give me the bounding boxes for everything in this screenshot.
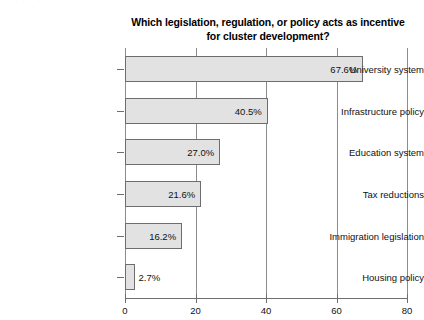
category-label: University system — [308, 63, 424, 74]
bar-value-label: 16.2% — [149, 224, 176, 250]
y-tick — [117, 69, 124, 70]
x-tick-80 — [407, 294, 408, 303]
x-tick-label-60: 60 — [331, 305, 342, 316]
x-tick-60 — [337, 294, 338, 303]
scan-artifact-text: · · · · — [14, 0, 41, 5]
bar-value-label: 27.0% — [187, 140, 214, 166]
y-tick — [117, 194, 124, 195]
category-label: Education system — [308, 147, 424, 158]
y-tick — [117, 111, 124, 112]
y-tick — [117, 236, 124, 237]
bar-value-label: 21.6% — [168, 182, 195, 208]
x-tick-label-40: 40 — [261, 305, 272, 316]
bar-chart: · · · · Which legislation, regulation, o… — [0, 0, 424, 320]
x-tick-label-80: 80 — [402, 305, 413, 316]
category-label: Immigration legislation — [308, 230, 424, 241]
chart-title: Which legislation, regulation, or policy… — [112, 16, 424, 43]
bar: 16.2% — [125, 223, 182, 249]
bar-value-label: 40.5% — [235, 99, 262, 125]
x-tick-label-20: 20 — [190, 305, 201, 316]
plot-area: 67.6%40.5%27.0%21.6%16.2%2.7% — [125, 48, 407, 298]
gridline-20 — [196, 48, 197, 298]
chart-title-line-1: Which legislation, regulation, or policy… — [131, 16, 405, 28]
chart-title-line-2: for cluster development? — [112, 30, 424, 44]
x-tick-0 — [125, 294, 126, 303]
bar: 27.0% — [125, 139, 220, 165]
bar-value-label: 2.7% — [139, 265, 161, 291]
gridline-60 — [337, 48, 338, 298]
x-tick-20 — [196, 294, 197, 303]
x-tick-40 — [266, 294, 267, 303]
category-label: Tax reductions — [308, 188, 424, 199]
gridline-0 — [125, 48, 126, 298]
category-label: Housing policy — [308, 272, 424, 283]
category-label: Infrastructure policy — [308, 105, 424, 116]
y-tick — [117, 277, 124, 278]
bar: 2.7% — [125, 264, 135, 290]
gridline-80 — [407, 48, 408, 298]
gridline-40 — [266, 48, 267, 298]
bar: 21.6% — [125, 181, 201, 207]
bar: 40.5% — [125, 98, 268, 124]
y-tick — [117, 152, 124, 153]
x-tick-label-0: 0 — [122, 305, 127, 316]
